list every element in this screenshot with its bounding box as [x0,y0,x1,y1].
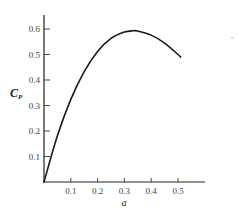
x-tick-label: 0.4 [146,186,158,196]
cp-curve [44,31,181,182]
y-tick-label: 0.5 [29,50,41,60]
y-tick-label: 0.2 [29,126,40,136]
corner-mark: " [231,36,234,43]
y-tick-label: 0.6 [29,24,41,34]
y-axis-label: CP [10,86,23,101]
chart: 0.10.20.30.40.5 0.10.20.30.40.50.6 a CP … [0,0,244,216]
x-tick-label: 0.1 [65,186,76,196]
y-tick-label: 0.4 [29,75,41,85]
y-tick-label: 0.1 [29,152,40,162]
axes [43,15,205,183]
x-ticks: 0.10.20.30.40.5 [65,178,184,196]
y-tick-label: 0.3 [29,101,41,111]
x-tick-label: 0.2 [92,186,103,196]
x-tick-label: 0.5 [172,186,184,196]
x-axis-label: a [122,197,127,208]
x-tick-label: 0.3 [119,186,131,196]
y-ticks: 0.10.20.30.40.50.6 [29,24,50,162]
